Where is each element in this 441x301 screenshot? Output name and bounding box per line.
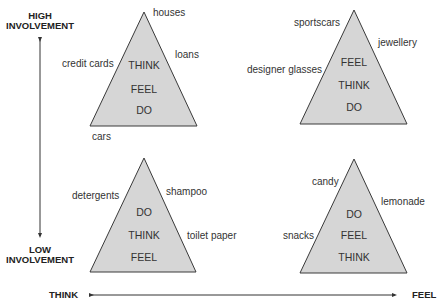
feel-axis-label: FEEL: [412, 290, 436, 300]
involvement-label: INVOLVEMENT: [2, 255, 78, 265]
product-label: shampoo: [166, 186, 207, 197]
sequence-step-1: DO: [324, 209, 384, 220]
involvement-label: INVOLVEMENT: [2, 21, 78, 31]
sequence-step-2: THINK: [324, 80, 384, 91]
product-label: sportscars: [294, 17, 340, 28]
product-label: loans: [175, 49, 199, 60]
high-involvement-label: HIGH INVOLVEMENT: [2, 11, 78, 31]
sequence-step-3: DO: [114, 105, 174, 116]
product-label: toilet paper: [187, 230, 236, 241]
product-label: snacks: [283, 230, 314, 241]
sequence-step-3: THINK: [324, 252, 384, 263]
product-label: cars: [92, 131, 111, 142]
product-label: houses: [153, 7, 185, 18]
product-label: candy: [312, 176, 339, 187]
product-label: lemonade: [381, 196, 425, 207]
think-axis-label: THINK: [49, 290, 78, 300]
product-label: credit cards: [62, 58, 114, 69]
product-label: detergents: [72, 190, 119, 201]
sequence-step-1: THINK: [114, 60, 174, 71]
product-label: designer glasses: [247, 64, 322, 75]
sequence-step-2: FEEL: [324, 230, 384, 241]
sequence-step-2: THINK: [114, 230, 174, 241]
sequence-step-1: DO: [114, 207, 174, 218]
sequence-step-2: FEEL: [114, 84, 174, 95]
low-involvement-label: LOW INVOLVEMENT: [2, 245, 78, 265]
sequence-step-3: FEEL: [114, 252, 174, 263]
sequence-step-3: DO: [324, 102, 384, 113]
sequence-step-1: FEEL: [324, 57, 384, 68]
product-label: jewellery: [378, 37, 417, 48]
